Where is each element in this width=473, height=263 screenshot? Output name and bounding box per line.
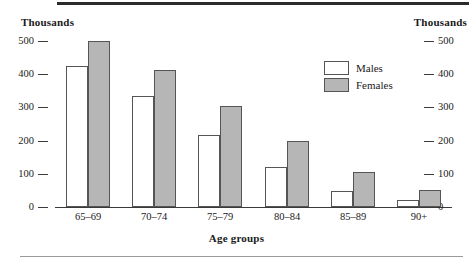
bar-males-70-74 (132, 96, 154, 207)
legend-item-females: Females (324, 76, 393, 93)
bar-females-70-74 (154, 70, 176, 207)
y-axis-tick-label-left: 100 (8, 169, 34, 180)
y-axis-tick-left (38, 74, 48, 75)
y-axis-tick-right (424, 41, 434, 42)
bar-females-90+ (419, 190, 441, 207)
x-axis-category-label: 75–79 (187, 211, 253, 222)
y-axis-tick-label-right: 200 (438, 136, 468, 147)
y-axis-tick-left (38, 207, 48, 208)
y-axis-tick-label-right: 400 (438, 69, 468, 80)
y-axis-tick-left (38, 141, 48, 142)
y-axis-tick-label-left: 0 (8, 202, 34, 213)
legend-swatch-females-icon (324, 78, 349, 92)
y-axis-tick-label-left: 400 (8, 69, 34, 80)
x-axis-category-label: 65–69 (55, 211, 121, 222)
y-axis-tick-left (38, 107, 48, 108)
y-axis-spine (54, 41, 55, 208)
bar-females-85-89 (353, 172, 375, 207)
bar-females-65-69 (88, 41, 110, 207)
x-axis-category-label: 70–74 (121, 211, 187, 222)
y-axis-tick-label-right: 500 (438, 36, 468, 47)
y-axis-tick-right (424, 207, 434, 208)
x-axis-category-label: 85–89 (320, 211, 386, 222)
y-axis-tick-right (424, 107, 434, 108)
y-axis-tick-right (424, 174, 434, 175)
y-axis-tick-label-right: 300 (438, 102, 468, 113)
y-axis-tick-label-right: 100 (438, 169, 468, 180)
y-axis-tick-right (424, 141, 434, 142)
bar-males-75-79 (198, 135, 220, 207)
chart-legend: MalesFemales (324, 59, 393, 93)
y-axis-tick-label-left: 500 (8, 36, 34, 47)
x-axis-baseline (54, 207, 452, 208)
x-axis-category-label: 90+ (386, 211, 452, 222)
legend-label: Females (356, 79, 393, 91)
bar-females-80-84 (287, 141, 309, 207)
bar-females-75-79 (220, 106, 242, 207)
legend-item-males: Males (324, 59, 393, 76)
plot-area: 0010010020020030030040040050050065–6970–… (0, 0, 473, 263)
bar-males-65-69 (66, 66, 88, 207)
y-axis-tick-left (38, 41, 48, 42)
y-axis-tick-label-left: 200 (8, 136, 34, 147)
bar-males-90+ (397, 200, 419, 207)
bar-males-85-89 (331, 191, 353, 207)
legend-swatch-males-icon (324, 61, 349, 75)
x-axis-title: Age groups (0, 232, 473, 244)
bar-males-80-84 (265, 167, 287, 207)
legend-label: Males (356, 62, 383, 74)
y-axis-tick-right (424, 74, 434, 75)
figure-container: Thousands Thousands 00100100200200300300… (0, 0, 473, 263)
x-axis-category-label: 80–84 (254, 211, 320, 222)
y-axis-tick-left (38, 174, 48, 175)
y-axis-tick-label-left: 300 (8, 102, 34, 113)
